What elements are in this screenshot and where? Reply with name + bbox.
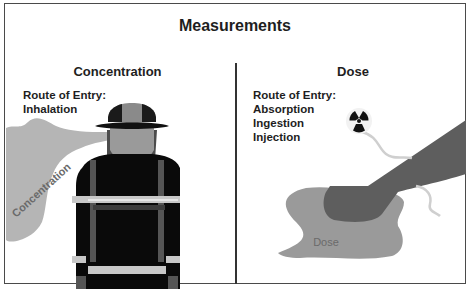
route-item: Ingestion <box>253 116 336 130</box>
concentration-routes: Route of Entry: Inhalation <box>23 88 106 116</box>
radiation-icon <box>346 108 372 134</box>
diagram-title: Measurements <box>0 17 470 35</box>
route-label: Route of Entry: <box>253 88 336 102</box>
concentration-heading: Concentration <box>0 64 235 79</box>
route-item: Inhalation <box>23 102 106 116</box>
drip-line <box>416 186 440 216</box>
radiation-path-line <box>362 132 412 158</box>
route-label: Route of Entry: <box>23 88 106 102</box>
dose-heading: Dose <box>236 64 470 79</box>
panel-divider <box>235 63 237 284</box>
dose-routes: Route of Entry: Absorption Ingestion Inj… <box>253 88 336 144</box>
route-item: Absorption <box>253 102 336 116</box>
puddle-label: Dose <box>313 236 339 248</box>
firefighter-figure <box>72 103 180 289</box>
route-item: Injection <box>253 130 336 144</box>
